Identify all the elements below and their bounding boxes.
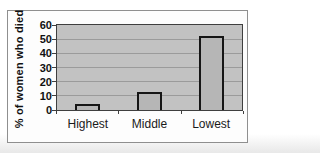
y-axis-tick-icon: [52, 25, 56, 26]
bar: [199, 36, 224, 110]
x-axis-tick-icon: [181, 111, 182, 114]
y-tick-label: 10: [8, 90, 52, 102]
plot-area: [56, 24, 243, 111]
y-tick-label: 50: [8, 33, 52, 45]
y-tick-label: 30: [8, 62, 52, 74]
x-axis-tick-icon: [118, 111, 119, 114]
y-tick-label: 40: [8, 47, 52, 59]
y-tick-label: 0: [8, 104, 52, 116]
x-category-label: Highest: [53, 117, 123, 131]
x-axis-tick-icon: [56, 111, 57, 114]
bar: [75, 104, 100, 110]
y-axis-tick-icon: [52, 53, 56, 54]
chart-frame: % of women who died 0102030405060 Highes…: [7, 10, 248, 143]
x-category-label: Lowest: [176, 117, 246, 131]
y-axis-tick-labels: 0102030405060: [8, 25, 52, 110]
y-axis-tick-icon: [52, 81, 56, 82]
y-axis-tick-icon: [52, 67, 56, 68]
x-axis-tick-icon: [243, 111, 244, 114]
y-tick-label: 60: [8, 19, 52, 31]
bar: [137, 92, 162, 110]
y-tick-label: 20: [8, 76, 52, 88]
y-axis-tick-icon: [52, 39, 56, 40]
y-axis-tick-icon: [52, 95, 56, 96]
x-category-label: Middle: [115, 117, 185, 131]
